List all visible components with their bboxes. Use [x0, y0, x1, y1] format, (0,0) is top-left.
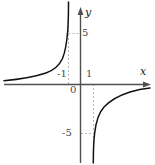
x-axis-arrowhead — [143, 82, 151, 88]
y-tick-label-5: 5 — [82, 28, 88, 38]
y-tick-label-neg5: -5 — [62, 128, 72, 138]
x-tick-label-1: 1 — [86, 69, 92, 79]
x-tick-label-neg1: -1 — [57, 69, 67, 79]
y-axis-label: y — [85, 7, 91, 18]
x-axis-label: x — [140, 66, 146, 77]
graph-figure: y x 5 -5 -1 1 0 — [0, 0, 155, 165]
curve-right-branch — [93, 88, 150, 163]
y-axis-arrowhead — [78, 7, 84, 15]
origin-label: 0 — [70, 85, 76, 95]
graph-canvas — [0, 0, 155, 165]
